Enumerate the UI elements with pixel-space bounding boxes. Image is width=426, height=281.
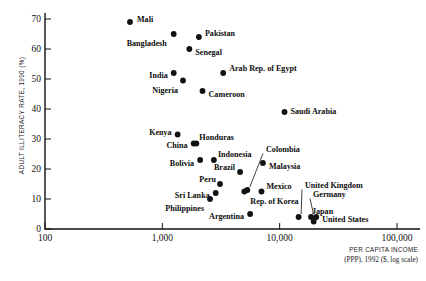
point-label: Peru [199,175,216,184]
point-label: Malaysia [269,162,300,171]
data-point [311,219,317,225]
y-tick-label: 40 [32,104,42,114]
x-tick-label: 10,000 [267,233,293,243]
y-tick-label: 30 [32,134,42,144]
x-tick-labels: 1001,00010,000100,000 [38,233,413,243]
leader-line [250,154,263,188]
x-tick-label: 100 [38,233,53,243]
data-point [259,189,265,195]
data-point [127,19,133,25]
point-label: China [167,141,188,150]
data-point [237,169,243,175]
axes-group [45,13,420,229]
y-tick-label: 70 [32,14,42,24]
x-axis-subtitle: (PPP), 1992 ($, log scale) [344,256,418,264]
point-label: Nigeria [152,86,178,95]
data-point [197,157,203,163]
data-point [196,34,202,40]
point-label: Bangladesh [127,39,168,48]
point-label: United Kingdom [305,181,363,190]
x-tick-label: 1,000 [152,233,174,243]
axis-lines [45,13,420,229]
point-label: Arab Rep. of Egypt [229,64,297,73]
x-tick-label: 100,000 [382,233,413,243]
point-label: Rep. of Korea [250,197,298,206]
data-point [296,214,302,220]
point-label: Germany [313,190,346,199]
scatter-chart: ADULT ILLITERACY RATE, 1990 (%) 01020304… [0,0,426,281]
point-label: Kenya [149,128,171,137]
x-ticks [45,223,397,229]
point-label: Colombia [266,145,300,154]
point-label: Japan [312,207,334,216]
data-points [127,19,319,224]
data-point [220,70,226,76]
y-tick-label: 50 [32,74,42,84]
point-label: Honduras [199,133,234,142]
data-point [186,46,192,52]
point-label: Brazil [214,163,236,172]
point-label: Bolivia [170,159,194,168]
data-point [247,211,253,217]
point-label: Argentina [209,212,244,221]
point-label: Senegal [195,48,222,57]
point-label: Pakistan [205,29,236,38]
data-point [217,181,223,187]
point-label: Sri Lanka [175,191,210,200]
y-ticks [45,19,51,229]
point-label: Mexico [266,182,291,191]
data-point [175,132,181,138]
point-label: Saudi Arabia [291,107,337,116]
data-point [171,31,177,37]
data-point [200,88,206,94]
y-tick-label: 60 [32,44,42,54]
point-label: India [149,71,167,80]
point-label: Cameroon [209,90,246,99]
plot-area: 010203040506070 1001,00010,000100,000 Ma… [0,0,426,281]
point-label: Mali [137,15,154,24]
y-tick-labels: 010203040506070 [32,14,42,234]
data-point [171,70,177,76]
point-label: Philippines [165,204,204,213]
leader-line [301,190,302,215]
y-tick-label: 20 [32,164,42,174]
x-axis-title: PER CAPITA INCOME [349,246,418,253]
y-tick-label: 10 [32,194,42,204]
data-point [260,160,266,166]
data-point [282,109,288,115]
data-point [213,190,219,196]
point-label: Indonesia [218,150,252,159]
data-point [180,78,186,84]
data-point [241,189,247,195]
